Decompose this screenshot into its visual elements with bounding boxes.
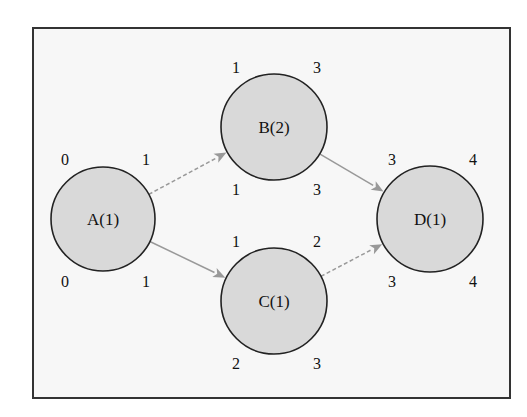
time-label-top-right: 3 xyxy=(313,59,321,76)
time-label-top-left: 3 xyxy=(388,151,396,168)
time-label-bottom-left: 3 xyxy=(388,273,396,290)
time-label-bottom-right: 1 xyxy=(142,273,150,290)
time-label-bottom-right: 3 xyxy=(313,355,321,372)
node-label: C(1) xyxy=(258,292,289,311)
node-label: A(1) xyxy=(87,210,119,229)
activity-network-diagram: A(1)0101B(2)1313C(1)1223D(1)3434 xyxy=(0,0,527,417)
time-label-top-right: 1 xyxy=(142,151,150,168)
time-label-bottom-right: 4 xyxy=(469,273,477,290)
time-label-top-left: 0 xyxy=(61,151,69,168)
time-label-bottom-left: 0 xyxy=(61,273,69,290)
node-label: D(1) xyxy=(414,210,446,229)
time-label-top-left: 1 xyxy=(232,233,240,250)
time-label-top-left: 1 xyxy=(232,59,240,76)
time-label-bottom-right: 3 xyxy=(313,181,321,198)
time-label-bottom-left: 1 xyxy=(232,181,240,198)
time-label-top-right: 4 xyxy=(469,151,477,168)
time-label-bottom-left: 2 xyxy=(232,355,240,372)
node-label: B(2) xyxy=(258,118,289,137)
time-label-top-right: 2 xyxy=(313,233,321,250)
